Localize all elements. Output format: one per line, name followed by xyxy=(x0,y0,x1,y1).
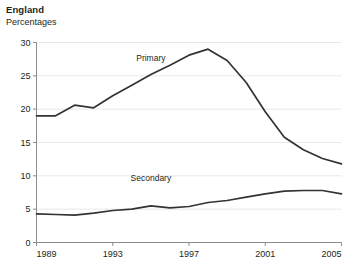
y-tick-label: 5 xyxy=(25,204,30,214)
series-label-secondary: Secondary xyxy=(131,173,172,183)
y-tick-label: 0 xyxy=(25,238,30,248)
y-tick-label: 25 xyxy=(20,71,30,81)
chart-container: England Percentages 051015202530 1989199… xyxy=(0,0,351,268)
series-label-primary: Primary xyxy=(136,53,166,63)
x-tick-label: 1993 xyxy=(103,249,123,259)
line-chart-plot: 051015202530 19891993199720012005 Primar… xyxy=(0,0,351,268)
x-tick-label: 2001 xyxy=(255,249,275,259)
y-tick-label: 15 xyxy=(20,138,30,148)
x-tick-label: 1989 xyxy=(37,249,57,259)
series-labels-group: PrimarySecondary xyxy=(131,53,172,183)
x-tick-label: 1997 xyxy=(179,249,199,259)
x-axis-ticks-group: 19891993199720012005 xyxy=(37,243,342,259)
x-tick-label: 2005 xyxy=(321,249,341,259)
y-axis-ticks-group: 051015202530 xyxy=(20,38,36,248)
series-line-primary xyxy=(37,49,342,164)
gridlines-group xyxy=(37,43,342,210)
y-tick-label: 20 xyxy=(20,104,30,114)
y-tick-label: 10 xyxy=(20,171,30,181)
series-line-secondary xyxy=(37,191,342,216)
y-tick-label: 30 xyxy=(20,38,30,48)
series-group xyxy=(37,49,342,215)
